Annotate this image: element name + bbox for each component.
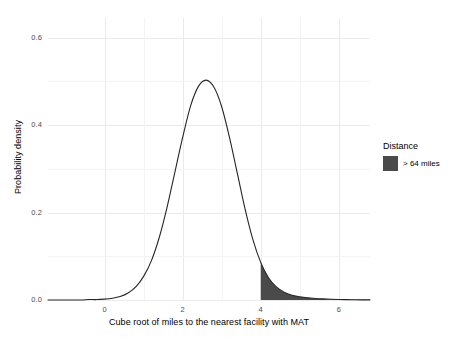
x-tick-label: 6 — [327, 306, 351, 314]
legend-items: > 64 miles — [383, 156, 461, 171]
y-tick-label: 0.0 — [12, 296, 42, 304]
y-tick-label: 0.6 — [12, 34, 42, 42]
shaded-tail-area — [261, 262, 370, 300]
gridline-horizontal — [48, 300, 370, 301]
x-axis-title: Cube root of miles to the nearest facili… — [48, 317, 370, 327]
legend-item: > 64 miles — [383, 156, 461, 171]
legend: Distance > 64 miles — [383, 141, 461, 171]
plot-area — [48, 18, 370, 300]
density-curve — [48, 80, 370, 300]
x-tick-label: 0 — [93, 306, 117, 314]
legend-swatch — [383, 156, 398, 171]
density-plot-figure: 0.00.20.40.6 0246 Cube root of miles to … — [0, 0, 464, 341]
plot-panel — [48, 18, 370, 300]
legend-title: Distance — [383, 141, 461, 151]
x-tick-label: 4 — [249, 306, 273, 314]
x-tick-label: 2 — [171, 306, 195, 314]
legend-item-label: > 64 miles — [403, 159, 440, 168]
y-axis-title: Probability density — [13, 102, 23, 212]
